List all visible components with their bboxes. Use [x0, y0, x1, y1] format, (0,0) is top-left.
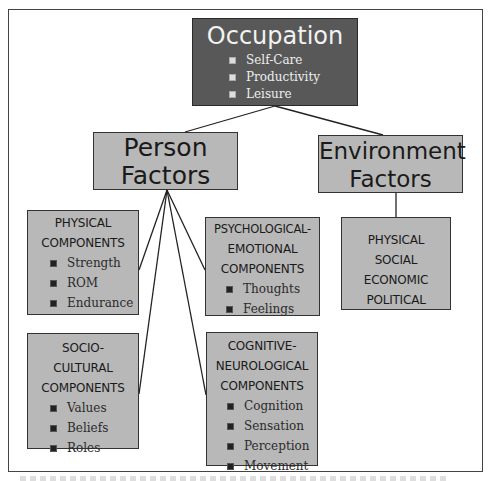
occupation-list: Self-Care Productivity Leisure [229, 52, 357, 103]
list-item: Feelings [226, 299, 319, 319]
cognitive-header-line3: COMPONENTS [207, 376, 317, 396]
bullet-icon [229, 91, 236, 98]
psych-header-line2: EMOTIONAL [206, 239, 319, 259]
environment-factors-title-line1: Environment [319, 137, 462, 165]
cropped-caption [20, 476, 450, 481]
list-item: Roles [50, 438, 138, 458]
bullet-icon [50, 405, 57, 412]
psych-header-line1: PSYCHOLOGICAL- [206, 219, 319, 239]
cognitive-header-line2: NEUROLOGICAL [207, 356, 317, 376]
list-item: Values [50, 398, 138, 418]
bullet-icon [50, 425, 57, 432]
list-item: Cognition [227, 396, 317, 416]
occupation-title: Occupation [193, 21, 357, 51]
list-item: Productivity [229, 69, 357, 86]
bullet-icon [50, 260, 57, 267]
bullet-icon [229, 57, 236, 64]
list-item: Leisure [229, 86, 357, 103]
psych-header-line3: COMPONENTS [206, 259, 319, 279]
bullet-icon [227, 403, 234, 410]
person-factors-title-line1: Person [94, 134, 237, 162]
socio-header-line1: SOCIO- [28, 338, 138, 358]
bullet-icon [227, 423, 234, 430]
physical-header-line2: COMPONENTS [28, 233, 138, 253]
list-item: Perception [227, 436, 317, 456]
psych-list: Thoughts Feelings [226, 279, 319, 319]
person-factors-box: Person Factors [93, 132, 238, 190]
env-component-political: POLITICAL [342, 290, 450, 310]
bullet-icon [229, 74, 236, 81]
environment-factors-box: Environment Factors [318, 135, 463, 193]
socio-header-line3: COMPONENTS [28, 378, 138, 398]
list-item: Movement [227, 456, 317, 476]
cognitive-header-line1: COGNITIVE- [207, 336, 317, 356]
list-item: Sensation [227, 416, 317, 436]
list-item: Self-Care [229, 52, 357, 69]
bullet-icon [226, 306, 233, 313]
list-item: Thoughts [226, 279, 319, 299]
physical-components-box: PHYSICAL COMPONENTS Strength ROM Enduran… [27, 210, 139, 315]
bullet-icon [227, 463, 234, 470]
person-factors-title-line2: Factors [94, 162, 237, 190]
env-component-social: SOCIAL [342, 250, 450, 270]
physical-header-line1: PHYSICAL [28, 213, 138, 233]
list-item: Endurance [50, 293, 138, 313]
list-item: Beliefs [50, 418, 138, 438]
bullet-icon [227, 443, 234, 450]
cognitive-list: Cognition Sensation Perception Movement [227, 396, 317, 476]
bullet-icon [50, 445, 57, 452]
socio-cultural-components-box: SOCIO- CULTURAL COMPONENTS Values Belief… [27, 333, 139, 449]
list-item: ROM [50, 273, 138, 293]
cognitive-neurological-components-box: COGNITIVE- NEUROLOGICAL COMPONENTS Cogni… [206, 332, 318, 466]
bullet-icon [226, 286, 233, 293]
physical-list: Strength ROM Endurance [50, 253, 138, 313]
socio-header-line2: CULTURAL [28, 358, 138, 378]
env-component-physical: PHYSICAL [342, 230, 450, 250]
socio-list: Values Beliefs Roles [50, 398, 138, 458]
env-component-economic: ECONOMIC [342, 270, 450, 290]
occupation-box: Occupation Self-Care Productivity Leisur… [192, 18, 358, 106]
list-item: Strength [50, 253, 138, 273]
environment-factors-title-line2: Factors [319, 165, 462, 193]
bullet-icon [50, 300, 57, 307]
environment-components-box: PHYSICAL SOCIAL ECONOMIC POLITICAL [341, 217, 451, 310]
psych-emotional-components-box: PSYCHOLOGICAL- EMOTIONAL COMPONENTS Thou… [205, 217, 320, 316]
bullet-icon [50, 280, 57, 287]
